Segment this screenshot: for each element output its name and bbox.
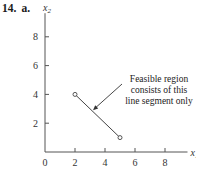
feasible-segment-line	[75, 94, 120, 137]
x-tick-label: 8	[163, 157, 168, 168]
x-tick-label: 0	[43, 157, 48, 168]
annotation-text: Feasible region consists of this line se…	[122, 74, 196, 107]
x-tick-label: 4	[103, 157, 108, 168]
y-tick-label: 2	[33, 118, 38, 129]
annotation-line-1: Feasible region	[122, 74, 196, 85]
y-tick-label: 8	[33, 31, 38, 42]
y-tick-label: 4	[33, 89, 38, 100]
x-axis-label: x1	[190, 147, 197, 160]
annotation-line-3: line segment only	[122, 96, 196, 107]
y-tick-label: 6	[33, 60, 38, 71]
annotation-line-2: consists of this	[122, 85, 196, 96]
x-tick-label: 6	[133, 157, 138, 168]
segment-endpoint	[118, 136, 122, 140]
y-axis-label: x2	[42, 2, 51, 15]
segment-endpoint	[73, 92, 77, 96]
annotation-arrow-line	[95, 84, 122, 108]
x-tick-label: 2	[73, 157, 78, 168]
